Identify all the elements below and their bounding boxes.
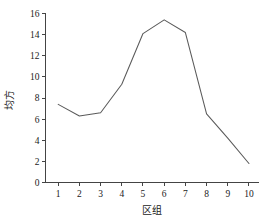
x-tick-label: 6 <box>162 189 167 199</box>
x-tick-label: 2 <box>77 189 82 199</box>
chart-container: 024681012141612345678910区组均方 <box>0 0 267 222</box>
y-tick-label: 2 <box>35 157 40 167</box>
x-tick-label: 7 <box>183 189 188 199</box>
x-tick-label: 5 <box>141 189 146 199</box>
y-tick-label: 4 <box>35 136 40 146</box>
y-tick-label: 14 <box>30 30 40 40</box>
y-axis-title: 均方 <box>3 90 15 110</box>
y-tick-label: 6 <box>35 115 40 125</box>
y-tick-label: 8 <box>35 93 40 103</box>
y-tick-label: 12 <box>30 51 40 61</box>
x-tick-label: 8 <box>204 189 209 199</box>
y-tick-label: 16 <box>30 9 40 19</box>
x-tick-label: 9 <box>225 189 230 199</box>
y-tick-label: 0 <box>35 178 40 188</box>
x-tick-label: 10 <box>244 189 254 199</box>
axis-spines <box>46 14 259 183</box>
x-tick-label: 3 <box>98 189 103 199</box>
y-tick-label: 10 <box>30 72 40 82</box>
x-axis-title: 区组 <box>142 204 162 216</box>
x-tick-label: 4 <box>119 189 124 199</box>
line-chart: 024681012141612345678910区组均方 <box>0 0 267 222</box>
x-tick-label: 1 <box>56 189 61 199</box>
data-series-line <box>58 20 249 164</box>
